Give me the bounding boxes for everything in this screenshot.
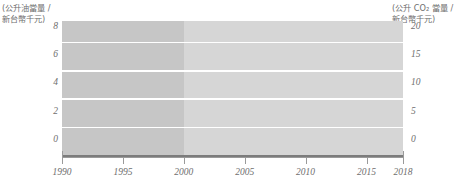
ytick-right-15: 15: [411, 49, 437, 59]
xtickmark-1995: [123, 157, 124, 164]
xtickmark-2015: [367, 157, 368, 164]
ytick-right-10: 10: [411, 77, 437, 87]
ytick-left-6: 6: [34, 49, 58, 59]
xtickmark-2010: [306, 157, 307, 164]
xtick-label-2018: 2018: [383, 167, 423, 177]
gridline-8: [62, 42, 403, 44]
gridline-4: [62, 98, 403, 100]
x-axis-endcap-right: [403, 151, 404, 164]
xtick-label-2005: 2005: [225, 167, 265, 177]
gridline-6: [62, 70, 403, 72]
ytick-left-2: 2: [34, 106, 58, 116]
ytick-left-0: 0: [34, 134, 58, 144]
xtick-label-1990: 1990: [42, 167, 82, 177]
ytick-left-8: 8: [34, 21, 58, 31]
chart-root: (公升油當量 / 新台幣千元) (公升 CO₂ 當量 / 新台幣千元) 0 2 …: [0, 0, 466, 185]
ytick-left-4: 4: [34, 77, 58, 87]
xtickmark-2000: [184, 157, 185, 164]
xtick-label-2000: 2000: [164, 167, 204, 177]
gridline-2: [62, 127, 403, 129]
xtick-label-2015: 2015: [347, 167, 387, 177]
xtickmark-1990: [62, 157, 63, 164]
xtick-label-1995: 1995: [103, 167, 143, 177]
ytick-right-0: 0: [411, 134, 437, 144]
plot-area: [62, 21, 403, 157]
ytick-right-5: 5: [411, 106, 437, 116]
xtickmark-2005: [245, 157, 246, 164]
xtick-label-2010: 2010: [286, 167, 326, 177]
x-axis-rule: [62, 157, 403, 158]
ytick-right-20: 20: [411, 21, 437, 31]
